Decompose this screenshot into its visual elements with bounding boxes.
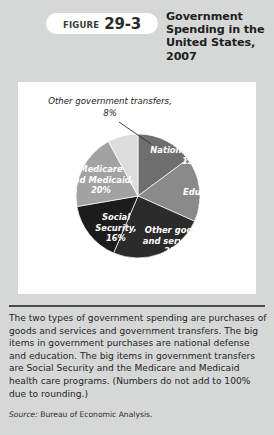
figure-caption: The two types of government spending are…: [9, 312, 267, 400]
pie-label-education: Education,: [183, 187, 233, 197]
pie-chart-svg: National defense,15%Education,17%Other g…: [18, 82, 256, 294]
figure-source: Source: Bureau of Economic Analysis.: [9, 410, 267, 420]
pie-label-education: 17%: [198, 198, 218, 208]
pie-label-social-security: 16%: [106, 233, 126, 243]
pie-label-other-goods-and-services: Other goods: [145, 225, 203, 235]
chart-panel: National defense,15%Education,17%Other g…: [18, 82, 256, 294]
figure-badge-word: Figure: [63, 20, 99, 30]
pie-label-social-security: Social: [102, 212, 130, 222]
pie-label-national-defense: National defense,: [150, 145, 234, 155]
pie-chart: National defense,15%Education,17%Other g…: [18, 82, 256, 294]
pie-label-medicare-and-medicaid: 20%: [91, 185, 111, 195]
pie-label-other-government-transfers: 8%: [103, 108, 117, 118]
figure-number-badge: Figure 29-3: [46, 13, 158, 34]
figure-header: Figure 29-3 Government Spending in the U…: [0, 6, 274, 68]
pie-label-medicare-and-medicaid: and Medicaid,: [68, 175, 134, 185]
pie-label-other-goods-and-services: 25%: [164, 246, 184, 256]
pie-label-medicare-and-medicaid: Medicare: [79, 164, 123, 174]
pie-label-national-defense: 15%: [182, 156, 202, 166]
source-text: Bureau of Economic Analysis.: [40, 410, 152, 419]
caption-divider: [9, 305, 265, 307]
figure-title: Government Spending in the United States…: [166, 10, 270, 63]
pie-label-other-government-transfers: Other government transfers,: [48, 96, 172, 106]
figure-badge-number: 29-3: [104, 15, 141, 33]
pie-label-other-goods-and-services: and services,: [143, 236, 205, 246]
source-keyword: Source:: [9, 410, 38, 419]
pie-label-social-security: Security,: [95, 223, 137, 233]
